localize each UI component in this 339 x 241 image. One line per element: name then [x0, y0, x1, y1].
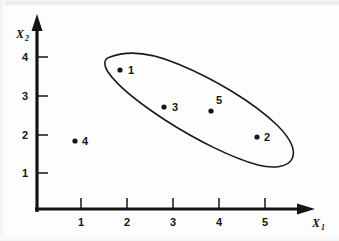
data-point-label: 1 — [128, 64, 134, 76]
x-tick-label-4: 4 — [216, 216, 223, 228]
data-point-4[interactable]: 4 — [72, 135, 89, 147]
data-point-marker — [161, 104, 166, 109]
data-point-marker — [254, 134, 259, 139]
y-axis-label: X 2 — [15, 27, 29, 43]
data-point-3[interactable]: 3 — [161, 101, 178, 113]
y-tick-label-2: 2 — [22, 129, 28, 141]
data-point-label: 2 — [264, 131, 270, 143]
figure-canvas: 4 3 2 1 1 2 3 4 5 X 2 X 1 — [0, 0, 339, 241]
y-tick-label-3: 3 — [22, 90, 28, 102]
x-tick-label-3: 3 — [170, 216, 176, 228]
data-point-label: 3 — [172, 101, 178, 113]
y-axis — [32, 14, 43, 212]
x-tick-label-2: 2 — [124, 216, 130, 228]
x-tick-label-1: 1 — [78, 216, 84, 228]
data-point-5[interactable]: 5 — [208, 94, 222, 114]
data-point-marker — [208, 108, 213, 113]
data-point-marker — [117, 67, 122, 72]
data-point-1[interactable]: 1 — [117, 64, 134, 76]
x-axis-label-subscript: 1 — [321, 223, 325, 232]
data-point-marker — [72, 138, 77, 143]
y-tick-label-4: 4 — [22, 51, 29, 63]
data-point-label: 4 — [82, 135, 89, 147]
x-axis — [35, 204, 315, 215]
y-axis-ticks — [37, 57, 48, 173]
x-axis-ticks — [81, 198, 265, 209]
scatter-plot: 4 3 2 1 1 2 3 4 5 X 2 X 1 — [0, 0, 339, 241]
x-axis-label-base: X — [311, 216, 321, 230]
y-tick-label-1: 1 — [22, 167, 28, 179]
data-point-2[interactable]: 2 — [254, 131, 270, 143]
x-tick-label-5: 5 — [262, 216, 268, 228]
data-point-label: 5 — [216, 94, 222, 106]
y-axis-label-base: X — [15, 27, 25, 41]
x-axis-label: X 1 — [311, 216, 325, 232]
y-axis-label-subscript: 2 — [24, 34, 29, 43]
